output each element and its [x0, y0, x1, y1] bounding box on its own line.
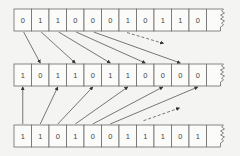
bit-value: 0	[91, 71, 95, 80]
bit-value: 0	[143, 16, 147, 25]
bit-value: 1	[38, 16, 42, 25]
bit-value: 0	[108, 16, 112, 25]
bit-value: 1	[143, 132, 147, 141]
bit-value: 1	[56, 16, 60, 25]
bit-interleave-diagram: 011000101101011011000011010011101	[0, 0, 240, 156]
bit-mapping-arrow	[94, 32, 181, 63]
bottom-register: 11010011101	[14, 125, 225, 147]
continuation-arrow	[144, 108, 180, 121]
bit-value: 0	[161, 71, 165, 80]
bit-value: 0	[196, 71, 200, 80]
bit-mapping-arrow	[75, 87, 128, 124]
bit-value: 0	[73, 16, 77, 25]
bit-value: 1	[161, 16, 165, 25]
bit-mapping-arrow	[59, 32, 111, 63]
bit-value: 1	[108, 71, 112, 80]
bit-value: 1	[126, 71, 130, 80]
bit-value: 0	[91, 132, 95, 141]
bit-value: 1	[161, 132, 165, 141]
bit-value: 1	[73, 132, 77, 141]
bit-value: 0	[108, 132, 112, 141]
bit-value: 1	[56, 71, 60, 80]
bit-value: 1	[21, 71, 25, 80]
bit-value: 0	[143, 71, 147, 80]
torn-end-cell	[207, 64, 225, 86]
bit-mapping-arrow	[41, 32, 75, 63]
continuation-arrow	[127, 33, 163, 44]
bit-mapping-arrow	[76, 32, 145, 63]
bit-value: 1	[126, 132, 130, 141]
bit-value: 0	[178, 71, 182, 80]
bit-value: 0	[38, 71, 42, 80]
bit-value: 0	[21, 16, 25, 25]
bit-mapping-arrow	[93, 87, 163, 124]
bit-value: 0	[91, 16, 95, 25]
top-register: 01100010110	[14, 9, 225, 31]
torn-end-cell	[207, 9, 225, 31]
bit-value: 0	[196, 16, 200, 25]
bit-value: 0	[178, 132, 182, 141]
middle-register: 10110110000	[14, 64, 225, 86]
bit-mapping-arrow	[110, 87, 198, 124]
bit-value: 0	[56, 132, 60, 141]
bit-value: 1	[178, 16, 182, 25]
torn-end-cell	[207, 125, 225, 147]
bit-value: 1	[196, 132, 200, 141]
bit-value: 1	[38, 132, 42, 141]
bit-value: 1	[73, 71, 77, 80]
bit-mapping-arrow	[24, 32, 41, 63]
bit-mapping-arrow	[58, 87, 93, 124]
bit-value: 1	[21, 132, 25, 141]
bit-value: 1	[126, 16, 130, 25]
bit-mapping-arrow	[40, 87, 58, 124]
